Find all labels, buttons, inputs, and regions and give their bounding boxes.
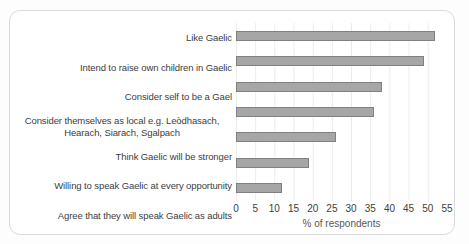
category-label: Think Gaelic will be stronger — [12, 141, 236, 171]
bar — [236, 107, 374, 117]
bar-row — [236, 176, 447, 201]
bar-row — [236, 48, 447, 73]
x-tick-label: 0 — [233, 203, 239, 214]
bar-row — [236, 74, 447, 99]
bar — [236, 183, 282, 193]
x-tick-label: 5 — [252, 203, 258, 214]
chart-canvas: Like GaelicIntend to raise own children … — [0, 0, 469, 244]
x-tick-label: 45 — [403, 203, 414, 214]
bar — [236, 31, 435, 41]
category-label: Agree that they will speak Gaelic as adu… — [12, 200, 236, 230]
x-tick-label: 30 — [346, 203, 357, 214]
plot-area — [236, 23, 447, 201]
bar — [236, 82, 382, 92]
bar — [236, 56, 424, 66]
x-tick-label: 15 — [288, 203, 299, 214]
category-label: Like Gaelic — [12, 23, 236, 53]
bar-row — [236, 125, 447, 150]
x-tick-label: 50 — [422, 203, 433, 214]
x-tick-label: 35 — [365, 203, 376, 214]
category-label: Consider self to be a Gael — [12, 82, 236, 112]
x-tick-label: 20 — [307, 203, 318, 214]
bar — [236, 132, 336, 142]
chart-body: Like GaelicIntend to raise own children … — [12, 23, 447, 230]
x-tick-label: 55 — [441, 203, 452, 214]
x-axis-title: % of respondents — [236, 218, 447, 229]
x-axis-ticks: 0510152025303540455055 — [236, 203, 447, 217]
x-tick-label: 25 — [326, 203, 337, 214]
bar-row — [236, 23, 447, 48]
bar-row — [236, 99, 447, 124]
plot-column: 0510152025303540455055 % of respondents — [236, 23, 447, 230]
chart-frame: Like GaelicIntend to raise own children … — [9, 10, 455, 235]
bar — [236, 158, 309, 168]
category-label: Intend to raise own children in Gaelic — [12, 53, 236, 83]
category-label: Consider themselves as local e.g. Leòdha… — [12, 112, 236, 142]
category-labels: Like GaelicIntend to raise own children … — [12, 23, 236, 230]
x-tick-label: 10 — [269, 203, 280, 214]
chart-inner: Like GaelicIntend to raise own children … — [10, 11, 454, 234]
category-label: Willing to speak Gaelic at every opportu… — [12, 171, 236, 201]
x-tick-label: 40 — [384, 203, 395, 214]
bar-row — [236, 150, 447, 175]
